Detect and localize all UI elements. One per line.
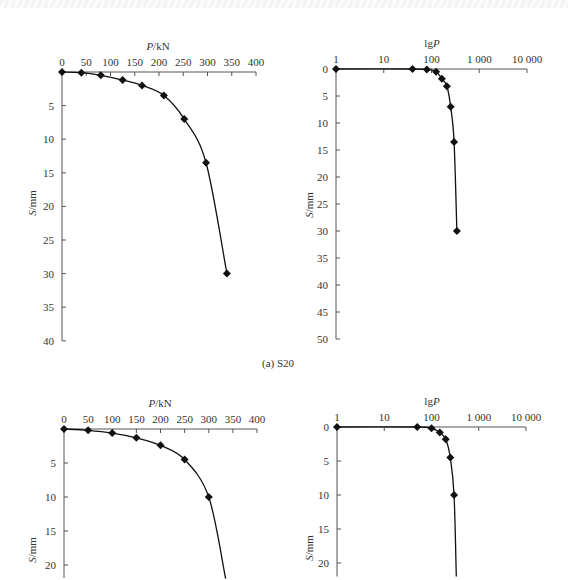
y-tick-label: 20 bbox=[43, 200, 55, 212]
x-tick-label: 50 bbox=[81, 56, 93, 68]
x-tick-label: 400 bbox=[249, 413, 266, 425]
data-point-diamond-icon bbox=[223, 270, 231, 278]
x-tick-label: 0 bbox=[61, 413, 67, 425]
x-tick-label: 10 000 bbox=[512, 53, 543, 65]
data-point-diamond-icon bbox=[446, 454, 454, 462]
y-tick-label: 20 bbox=[317, 171, 329, 183]
x-tick-label: 350 bbox=[225, 413, 242, 425]
x-tick-label: 200 bbox=[151, 56, 168, 68]
x-tick-label: 150 bbox=[127, 56, 144, 68]
y-tick-label: 0 bbox=[324, 421, 330, 433]
y-tick-label: 30 bbox=[317, 225, 329, 237]
data-point-diamond-icon bbox=[450, 138, 458, 146]
data-point-diamond-icon bbox=[423, 66, 431, 74]
x-tick-label: 350 bbox=[224, 56, 241, 68]
chart-b-log: 1101001 00010 00005101520lgPS/mm bbox=[303, 395, 542, 577]
data-point-diamond-icon bbox=[408, 65, 416, 73]
data-point-diamond-icon bbox=[428, 424, 436, 432]
y-tick-label: 30 bbox=[43, 268, 55, 280]
x-tick-label: 300 bbox=[201, 413, 218, 425]
y-tick-label: 15 bbox=[43, 167, 55, 179]
chart-a-linear: 050100150200250300350400510152025303540P… bbox=[26, 40, 265, 347]
data-point-diamond-icon bbox=[132, 434, 140, 442]
y-tick-label: 15 bbox=[45, 525, 57, 537]
y-tick-label: 0 bbox=[323, 63, 329, 75]
y-tick-label: 10 bbox=[43, 133, 55, 145]
x-tick-label: 100 bbox=[423, 411, 440, 423]
x-tick-label: 1 000 bbox=[466, 411, 491, 423]
y-tick-label: 10 bbox=[318, 489, 330, 501]
x-tick-label: 10 000 bbox=[511, 411, 542, 423]
x-tick-label: 100 bbox=[423, 53, 440, 65]
x-tick-label: 250 bbox=[175, 56, 192, 68]
charts-canvas: 050100150200250300350400510152025303540P… bbox=[0, 0, 568, 580]
data-point-diamond-icon bbox=[202, 159, 210, 167]
y-tick-label: 25 bbox=[43, 234, 55, 246]
x-axis-label: P/kN bbox=[145, 40, 169, 52]
chart-b-linear: 0501001502002503003504005101520P/kNS/mm bbox=[26, 397, 266, 579]
data-point-diamond-icon bbox=[442, 435, 450, 443]
data-curve bbox=[336, 69, 457, 231]
data-point-diamond-icon bbox=[450, 491, 458, 499]
y-tick-label: 5 bbox=[324, 455, 330, 467]
y-axis-label: S/mm bbox=[303, 192, 315, 218]
chart-a-log: 1101001 00010 00005101520253035404550lgP… bbox=[303, 37, 543, 345]
y-tick-label: 5 bbox=[51, 457, 57, 469]
data-point-diamond-icon bbox=[180, 115, 188, 123]
x-tick-label: 1 bbox=[334, 411, 340, 423]
data-point-diamond-icon bbox=[332, 65, 340, 73]
x-tick-label: 300 bbox=[199, 56, 216, 68]
y-tick-label: 10 bbox=[45, 491, 57, 503]
x-tick-label: 250 bbox=[176, 413, 193, 425]
y-tick-label: 20 bbox=[45, 559, 57, 571]
x-axis-label: lgP bbox=[424, 37, 440, 49]
y-tick-label: 45 bbox=[317, 306, 329, 318]
figure-caption-a: (a) S20 bbox=[262, 357, 294, 369]
x-tick-label: 10 bbox=[379, 411, 391, 423]
y-tick-label: 35 bbox=[317, 252, 329, 264]
x-tick-label: 400 bbox=[248, 56, 265, 68]
x-tick-label: 100 bbox=[102, 56, 119, 68]
y-tick-label: 5 bbox=[49, 100, 55, 112]
data-point-diamond-icon bbox=[119, 76, 127, 84]
x-tick-label: 10 bbox=[378, 53, 390, 65]
data-point-diamond-icon bbox=[205, 493, 213, 501]
data-point-diamond-icon bbox=[97, 71, 105, 79]
x-tick-label: 1 000 bbox=[467, 53, 492, 65]
y-tick-label: 35 bbox=[43, 301, 55, 313]
data-point-diamond-icon bbox=[77, 69, 85, 77]
y-axis-label: S/mm bbox=[26, 190, 38, 216]
data-point-diamond-icon bbox=[453, 227, 461, 235]
x-tick-label: 100 bbox=[104, 413, 121, 425]
y-tick-label: 20 bbox=[318, 557, 330, 569]
data-point-diamond-icon bbox=[413, 423, 421, 431]
data-point-diamond-icon bbox=[58, 68, 66, 76]
data-curve bbox=[62, 72, 227, 274]
y-axis-label: S/mm bbox=[26, 537, 38, 563]
x-tick-label: 200 bbox=[152, 413, 169, 425]
data-point-diamond-icon bbox=[443, 82, 451, 90]
data-curve bbox=[337, 427, 456, 577]
y-tick-label: 15 bbox=[318, 523, 330, 535]
data-curve bbox=[64, 429, 226, 579]
y-tick-label: 50 bbox=[317, 333, 329, 345]
data-point-diamond-icon bbox=[84, 426, 92, 434]
y-tick-label: 40 bbox=[43, 335, 55, 347]
data-point-diamond-icon bbox=[157, 441, 165, 449]
data-point-diamond-icon bbox=[138, 81, 146, 89]
x-tick-label: 150 bbox=[128, 413, 145, 425]
data-point-diamond-icon bbox=[447, 103, 455, 111]
data-point-diamond-icon bbox=[60, 425, 68, 433]
x-tick-label: 50 bbox=[83, 413, 95, 425]
x-tick-label: 0 bbox=[59, 56, 65, 68]
y-tick-label: 10 bbox=[317, 117, 329, 129]
y-axis-label: S/mm bbox=[303, 535, 315, 561]
y-tick-label: 5 bbox=[323, 90, 329, 102]
y-tick-label: 15 bbox=[317, 144, 329, 156]
data-point-diamond-icon bbox=[108, 429, 116, 437]
y-tick-label: 40 bbox=[317, 279, 329, 291]
x-axis-label: P/kN bbox=[147, 397, 171, 409]
data-point-diamond-icon bbox=[333, 423, 341, 431]
y-tick-label: 25 bbox=[317, 198, 329, 210]
x-tick-label: 1 bbox=[333, 53, 339, 65]
